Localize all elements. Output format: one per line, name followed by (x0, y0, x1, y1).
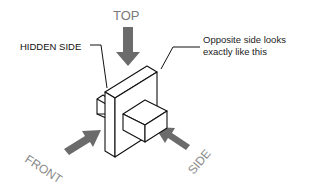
opposite-side-label: Opposite side looks exactly like this (203, 34, 286, 58)
front-arrow (64, 130, 101, 155)
opposite-side-label-line1: Opposite side looks (203, 34, 286, 46)
hidden-side-label: HIDDEN SIDE (20, 41, 81, 52)
opposite-side-label-line2: exactly like this (203, 46, 286, 58)
isometric-object (97, 66, 167, 157)
orthographic-view-diagram (0, 0, 309, 186)
slab-front (105, 92, 115, 157)
top-arrow (116, 27, 140, 66)
opposite-side-leader (161, 47, 200, 69)
hidden-side-leader (90, 45, 107, 88)
top-label: TOP (113, 8, 140, 23)
